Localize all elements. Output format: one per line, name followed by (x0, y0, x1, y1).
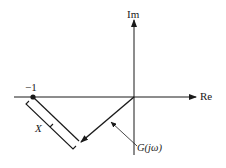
nyquist-diagram: Im Re −1 X G(jω) (0, 0, 226, 168)
locus-label: G(jω) (137, 143, 162, 154)
distance-line (33, 97, 79, 141)
distance-bracket (26, 101, 76, 149)
g-jw-leader-arrow (111, 122, 137, 146)
g-jw-locus (81, 97, 134, 142)
real-axis-label: Re (200, 91, 212, 102)
distance-label: X (35, 123, 42, 134)
critical-point-label: −1 (25, 82, 37, 93)
imag-axis-label: Im (127, 9, 139, 20)
